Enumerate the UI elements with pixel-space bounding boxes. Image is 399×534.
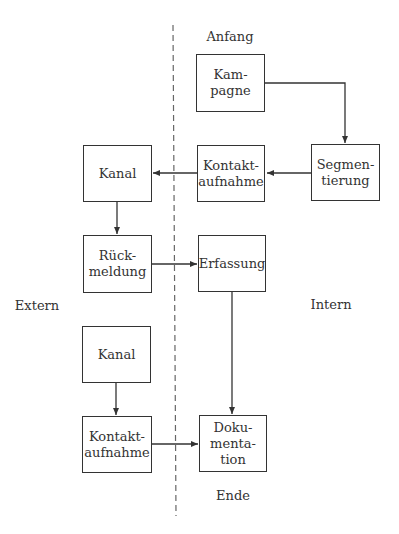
node-kanal-1: Kanal [83, 145, 152, 202]
node-rueckmeldung: Rück-meldung [83, 235, 152, 293]
node-text: Kanal [99, 166, 137, 182]
node-erfassung: Erfassung [198, 235, 266, 292]
node-text: menta- [210, 436, 256, 452]
node-text: Kontakt- [198, 158, 263, 174]
zone-divider-line [173, 25, 176, 516]
node-text: Doku- [210, 420, 256, 436]
node-text: tion [210, 452, 256, 468]
node-kontaktaufnahme-intern: Kontakt-aufnahme [197, 145, 265, 202]
node-text: Erfassung [199, 256, 266, 272]
zone-label-intern: Intern [310, 297, 351, 312]
zone-label-extern: Extern [15, 298, 59, 313]
node-text: aufnahme [84, 445, 149, 461]
node-text: aufnahme [198, 174, 263, 190]
node-text: Kontakt- [84, 429, 149, 445]
node-segmentierung: Segmen-tierung [311, 144, 380, 201]
node-kanal-2: Kanal [82, 326, 151, 383]
node-text: pagne [210, 83, 250, 99]
node-text: Rück- [89, 248, 147, 264]
node-text: Kam- [210, 67, 250, 83]
node-kampagne: Kam-pagne [196, 54, 265, 112]
end-label: Ende [216, 488, 250, 503]
node-text: Segmen- [317, 157, 375, 173]
node-text: tierung [317, 173, 375, 189]
node-text: Kanal [98, 347, 136, 363]
start-label: Anfang [206, 29, 253, 44]
node-kontaktaufnahme-extern: Kontakt-aufnahme [82, 416, 152, 473]
edge-kampagne-segmentierung [265, 83, 345, 143]
node-text: meldung [89, 264, 147, 280]
node-dokumentation: Doku-menta-tion [199, 415, 267, 472]
